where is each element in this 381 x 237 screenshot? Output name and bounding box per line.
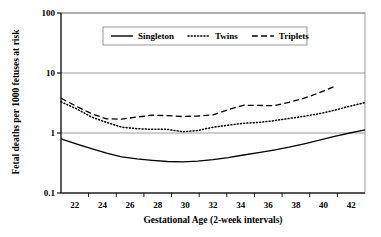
x-axis-ticks [89,193,338,197]
x-tick-label: 22 [70,200,80,210]
series-lines [61,86,365,162]
y-axis-tick-labels: 1001010.1 [42,8,62,198]
x-tick-label: 24 [98,200,108,210]
x-axis-tick-labels: 2224262830323436384042 [70,200,356,210]
y-tick-label: 10 [46,68,56,78]
y-tick-label: 0.1 [44,188,56,198]
x-tick-label: 30 [181,200,191,210]
x-tick-label: 28 [153,200,163,210]
series-line-triplets [61,86,335,119]
x-tick-label: 34 [236,200,246,210]
series-line-twins [61,102,365,132]
chart-canvas: 1001010.1 2224262830323436384042 Singlet… [0,0,381,237]
legend-label-triplets: Triplets [279,31,309,41]
y-tick-label: 100 [42,8,56,18]
x-tick-label: 36 [264,200,274,210]
x-tick-label: 40 [319,200,329,210]
y-tick-label: 1 [51,128,56,138]
x-tick-label: 38 [291,200,301,210]
x-tick-label: 32 [209,200,219,210]
series-line-singleton [61,130,365,162]
chart-legend: SingletonTwinsTriplets [103,27,309,45]
figure: Fetal deaths per 1000 fetuses at risk Ge… [0,0,381,237]
x-tick-label: 26 [126,200,136,210]
x-tick-label: 42 [347,200,357,210]
legend-label-singleton: Singleton [138,31,174,41]
legend-label-twins: Twins [215,31,238,41]
